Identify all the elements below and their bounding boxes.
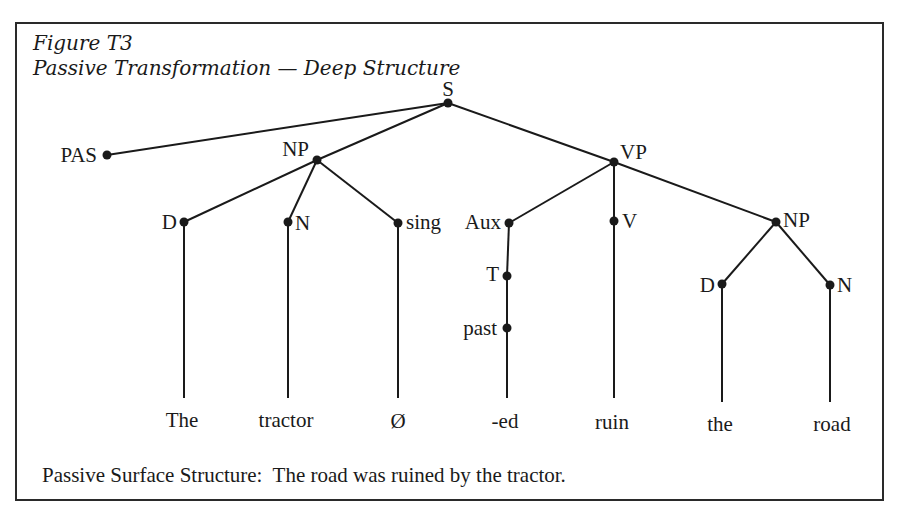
node-label-n-object: N	[837, 273, 852, 297]
node-label-np: NP	[282, 137, 309, 161]
leaf-null: Ø	[390, 409, 405, 433]
leaf-the: The	[166, 408, 199, 432]
edge-aux-t	[507, 223, 509, 276]
edge-np-d-object	[722, 222, 776, 284]
node-label-past: past	[463, 316, 497, 340]
edge-np-sing	[317, 160, 398, 223]
node-label-d: D	[162, 210, 177, 234]
edge-s-vp	[448, 103, 614, 162]
node-label-vp: VP	[620, 140, 647, 164]
leaf-ruin: ruin	[595, 410, 629, 434]
tree-node-labels: S PAS NP VP D N sing Aux V NP T past D N	[60, 77, 852, 340]
leaf-road: road	[813, 412, 851, 436]
node-label-v: V	[622, 209, 637, 233]
node-dot-past	[503, 324, 512, 333]
node-label-d-object: D	[700, 273, 715, 297]
edge-s-np	[317, 103, 448, 160]
node-dot-np	[313, 156, 322, 165]
tree-edges	[107, 103, 830, 402]
node-dot-vp	[610, 158, 619, 167]
node-dot-pas	[103, 151, 112, 160]
syntax-tree: S PAS NP VP D N sing Aux V NP T past D N…	[0, 0, 899, 512]
leaf-tractor: tractor	[259, 408, 314, 432]
leaf-ed: -ed	[492, 409, 519, 433]
node-dot-n	[284, 218, 293, 227]
node-label-aux: Aux	[465, 210, 502, 234]
node-dot-np-object	[772, 218, 781, 227]
node-label-sing: sing	[406, 210, 442, 234]
node-label-pas: PAS	[60, 143, 97, 167]
node-dot-d-object	[718, 280, 727, 289]
node-label-n: N	[295, 211, 310, 235]
leaf-the-object: the	[707, 412, 733, 436]
node-dot-aux	[505, 219, 514, 228]
tree-leaves: The tractor Ø -ed ruin the road	[166, 408, 851, 436]
edge-vp-aux	[509, 162, 614, 223]
node-dot-t	[503, 272, 512, 281]
node-dot-n-object	[826, 281, 835, 290]
edge-vp-np	[614, 162, 776, 222]
node-label-t: T	[486, 262, 499, 286]
node-label-np-object: NP	[783, 208, 810, 232]
node-label-s: S	[442, 77, 454, 101]
node-dot-d	[180, 218, 189, 227]
edge-s-pas	[107, 103, 448, 155]
node-dot-v	[610, 217, 619, 226]
figure-caption: Passive Surface Structure: The road was …	[42, 465, 566, 486]
node-dot-sing	[394, 219, 403, 228]
